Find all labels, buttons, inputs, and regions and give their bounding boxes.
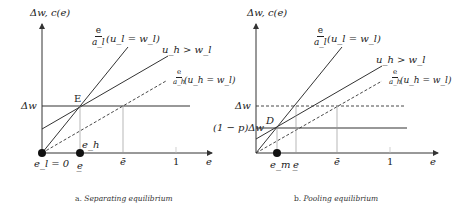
e-m-dot [273,149,281,157]
low-cost-condition-label: (u_l = w_l) [327,34,381,44]
caption-prefix: a. [75,194,82,203]
caption-separating: a. Separating equilibrium [75,194,173,203]
caption-title: Pooling equilibrium [304,194,379,203]
tick-one-label: 1 [387,157,393,167]
delta-w-label: Δw [235,101,251,111]
e-h-label: e_h [82,140,99,150]
y-axis-label: Δw, c(e) [247,8,287,18]
uh-gt-wl-line [42,56,168,129]
x-axis-label: e [430,157,436,167]
high-cost-condition-label: (u_h = w_l) [400,76,451,85]
e-lower-label: e̲ [77,161,83,171]
point-e-label: E [74,94,81,104]
fraction-numerator: e [317,26,324,37]
e-over-al-fraction: e a_l [92,26,105,47]
e-m-label: e_m [270,160,290,170]
fraction-numerator: e [95,26,102,37]
e-bar-label: ē [120,157,126,167]
e-bar-label: ē [334,157,340,167]
e-over-al-line [42,47,128,153]
diagram-canvas [0,0,458,216]
delta-w-label: Δw [21,101,37,111]
fraction-numerator: e [176,69,182,78]
origin-label: e_l = 0 [34,159,69,169]
tick-one-label: 1 [173,157,179,167]
pooled-wage-label: (1 − p)Δw [213,123,264,133]
origin-dot [38,149,46,157]
y-axis-label: Δw, c(e) [30,8,70,18]
point-d-label: D [266,116,274,126]
x-axis-label: e [206,157,212,167]
e-over-al-line [256,47,342,153]
fraction-denominator: a_l [314,37,327,47]
fraction-numerator: e [392,69,398,78]
uh-gt-wl-label: u_h > w_l [376,55,425,65]
high-cost-condition-label: (u_h = w_l) [184,76,235,85]
e-over-ah-dashed-line [256,81,382,153]
e-lower-label: e̲ [293,160,299,170]
e-over-ah-dashed-line [42,81,166,153]
low-cost-condition-label: (u_l = w_l) [106,34,160,44]
uh-gt-wl-label: u_h > w_l [162,45,211,55]
fraction-denominator: a_l [92,37,105,47]
caption-title: Separating equilibrium [84,194,172,203]
e-h-dot [76,149,84,157]
caption-pooling: b. Pooling equilibrium [294,194,378,203]
e-over-al-fraction: e a_l [314,26,327,47]
caption-prefix: b. [294,194,301,203]
